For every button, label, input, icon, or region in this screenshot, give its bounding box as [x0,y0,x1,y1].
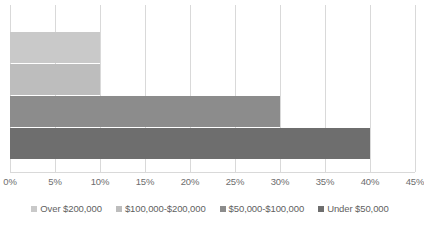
x-tick-label-9: 45% [406,176,424,187]
chart-legend: Over $200,000$100,000-$200,000$50,000-$1… [0,203,420,214]
bar-0[interactable] [10,32,100,63]
x-tick-label-8: 40% [361,176,380,187]
x-tick-label-1: 5% [48,176,62,187]
legend-item-1[interactable]: $100,000-$200,000 [116,203,206,214]
plot-area [10,5,415,172]
x-tick-label-2: 10% [91,176,110,187]
legend-item-3[interactable]: Under $50,000 [318,203,389,214]
x-tick-label-5: 25% [226,176,245,187]
x-tick-label-3: 15% [136,176,155,187]
legend-item-2[interactable]: $50,000-$100,000 [220,203,305,214]
bar-3[interactable] [10,128,370,159]
legend-swatch-icon-3 [318,206,324,212]
legend-label-1: $100,000-$200,000 [125,203,206,214]
legend-label-0: Over $200,000 [40,203,102,214]
legend-label-2: $50,000-$100,000 [229,203,305,214]
legend-swatch-icon-2 [220,206,226,212]
legend-swatch-icon-1 [116,206,122,212]
bar-2[interactable] [10,96,280,127]
x-tick-label-6: 30% [271,176,290,187]
x-tick-label-7: 35% [316,176,335,187]
legend-item-0[interactable]: Over $200,000 [31,203,102,214]
x-tick-label-4: 20% [181,176,200,187]
bars-group [10,5,415,172]
legend-label-3: Under $50,000 [327,203,389,214]
x-axis-line [10,172,415,173]
gridline-45 [415,5,416,172]
legend-swatch-icon-0 [31,206,37,212]
bar-1[interactable] [10,64,100,95]
x-axis-tick-labels: 0%5%10%15%20%25%30%35%40%45% [0,176,420,192]
x-tick-label-0: 0% [3,176,17,187]
